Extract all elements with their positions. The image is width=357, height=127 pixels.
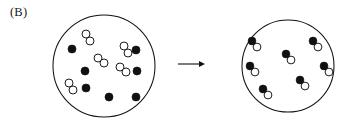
filled-atom-2 <box>81 67 89 75</box>
filled-atom <box>259 85 267 93</box>
open-atom-b <box>86 37 94 45</box>
filled-atom-3 <box>82 84 90 92</box>
open-atom-b <box>124 49 132 57</box>
reaction-arrow <box>178 61 205 67</box>
open-atom-b <box>100 59 108 67</box>
filled-atom <box>246 62 254 70</box>
reaction-arrow-head <box>199 61 205 67</box>
filled-atom <box>320 62 328 70</box>
filled-atom <box>248 37 256 45</box>
reaction-diagram-canvas <box>0 0 357 127</box>
filled-atom <box>309 37 317 45</box>
filled-atom-7 <box>132 93 140 101</box>
filled-atom-6 <box>105 93 113 101</box>
open-atom-b <box>122 68 130 76</box>
open-atom-b <box>69 86 77 94</box>
filled-atom-5 <box>133 67 141 75</box>
filled-atom <box>296 76 304 84</box>
filled-atom <box>282 50 290 58</box>
figure-root: (B) <box>0 0 357 127</box>
reactant-vessel-group <box>53 15 155 117</box>
filled-atom-4 <box>132 46 140 54</box>
product-vessel-group <box>242 20 334 112</box>
filled-atom-1 <box>68 45 76 53</box>
